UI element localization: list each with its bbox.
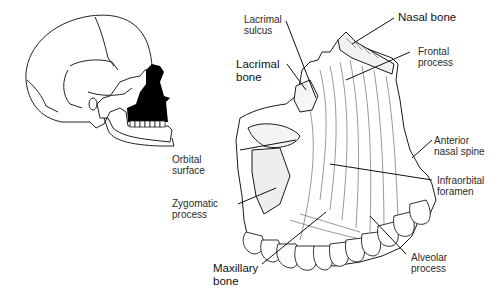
- label-orbital-surface: Orbital surface: [172, 154, 205, 176]
- maxilla-diagram: Lacrimal sulcus Nasal bone Frontal proce…: [0, 0, 498, 294]
- maxilla-highlight: [127, 64, 170, 122]
- label-maxillary-bone: Maxillary bone: [213, 262, 258, 288]
- label-lacrimal-sulcus: Lacrimal sulcus: [244, 14, 282, 36]
- label-alveolar-process: Alveolar process: [411, 252, 447, 274]
- skull-locator-illustration: [0, 0, 498, 294]
- label-anterior-nasal-spine: Anterior nasal spine: [434, 135, 485, 157]
- label-zygomatic-process: Zygomatic process: [172, 198, 218, 220]
- label-infraorbital-foramen: Infraorbital foramen: [437, 175, 484, 197]
- label-nasal-bone: Nasal bone: [398, 11, 456, 24]
- label-lacrimal-bone: Lacrimal bone: [236, 58, 279, 84]
- label-frontal-process: Frontal process: [418, 46, 453, 68]
